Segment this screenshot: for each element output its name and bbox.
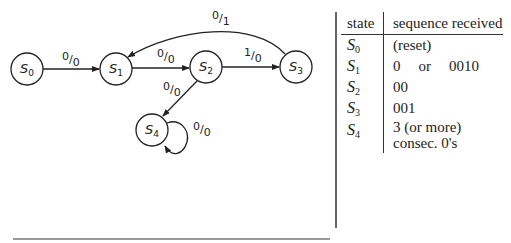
transition-s2-s3: 1/0	[222, 46, 279, 67]
svg-text:0/0: 0/0	[163, 80, 181, 99]
svg-text:1/0: 1/0	[244, 46, 262, 65]
table-row: S3 001	[341, 98, 503, 119]
svg-text:0/1: 0/1	[212, 9, 230, 28]
svg-text:S3: S3	[289, 59, 303, 76]
table-row: S1 0or0010	[341, 56, 503, 77]
svg-text:S1: S1	[109, 61, 123, 78]
table-row: S0 (reset)	[341, 35, 503, 56]
table-header: state sequence received	[341, 12, 503, 35]
transition-s3-s1: 0/1	[128, 9, 285, 57]
transition-s2-s4: 0/0	[163, 80, 197, 116]
svg-text:S0: S0	[20, 61, 34, 78]
state-table: state sequence received S0 (reset) S1 0o…	[341, 12, 503, 153]
svg-text:0/0: 0/0	[193, 120, 211, 139]
state-s0: S0	[11, 53, 43, 85]
state-s4: S4	[136, 114, 168, 146]
table-row: S2 00	[341, 77, 503, 98]
transition-s0-s1: 0/0	[43, 50, 99, 69]
svg-text:0/0: 0/0	[157, 47, 175, 66]
svg-text:S4: S4	[145, 122, 159, 139]
header-state: state	[341, 15, 383, 32]
state-s2: S2	[190, 51, 222, 83]
state-s1: S1	[100, 53, 132, 85]
header-sequence: sequence received	[383, 12, 503, 34]
transition-s4-s4: 0/0	[165, 120, 211, 154]
svg-text:0/0: 0/0	[62, 50, 80, 69]
svg-text:S2: S2	[199, 59, 213, 76]
table-row: S4 3 (or more)consec. 0's	[341, 119, 503, 153]
state-s3: S3	[280, 51, 312, 83]
